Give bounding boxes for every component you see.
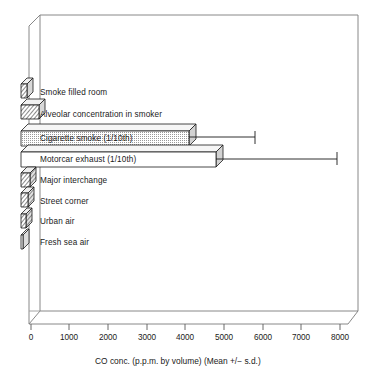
error-bar-cigarette-smoke (189, 131, 255, 144)
bar-urban-air (21, 208, 32, 228)
bar-label-major-interchange: Major interchange (40, 177, 107, 185)
x-tick-label-7000: 7000 (281, 334, 321, 342)
x-tick-label-6000: 6000 (243, 334, 283, 342)
bar-label-fresh-sea-air: Fresh sea air (40, 239, 89, 247)
x-tick-label-4000: 4000 (165, 334, 205, 342)
x-tick-label-5000: 5000 (204, 334, 244, 342)
x-axis-title: CO conc. (p.p.m. by volume) (Mean +/− s.… (95, 357, 261, 365)
bar-fresh-sea-air (21, 229, 29, 249)
x-tick-label-0: 0 (11, 334, 51, 342)
chart-container: Smoke filled room Alveolar concentration… (0, 0, 369, 376)
bar-label-street-corner: Street corner (40, 198, 89, 206)
x-tick-label-3000: 3000 (127, 334, 167, 342)
x-tick-label-1000: 1000 (49, 334, 89, 342)
error-bar-motorcar-exhaust (216, 152, 337, 165)
bar-smoke-filled-room (21, 78, 33, 98)
plot-frame (29, 15, 358, 324)
bar-label-urban-air: Urban air (40, 218, 75, 226)
bar-label-motorcar-exhaust: Motorcar exhaust (1/10th) (40, 156, 136, 164)
bar-label-smoke-filled-room: Smoke filled room (40, 89, 107, 97)
bar-label-alveolar-concentration: Alveolar concentration in smoker (40, 111, 162, 119)
x-tick-label-2000: 2000 (88, 334, 128, 342)
bar-chart-graphic (0, 0, 369, 376)
x-tick-label-8000: 8000 (320, 334, 360, 342)
bar-major-interchange (21, 167, 36, 187)
bar-street-corner (21, 187, 34, 207)
x-axis-ticks (31, 324, 340, 330)
bar-label-cigarette-smoke: Cigarette smoke (1/10th) (40, 135, 133, 143)
